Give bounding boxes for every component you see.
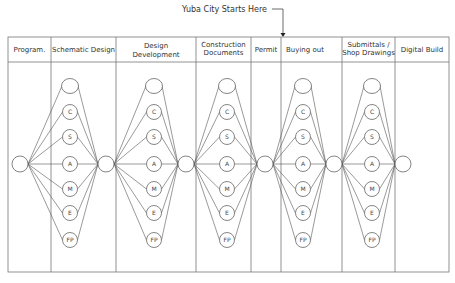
discipline-node-label: C [68, 108, 72, 115]
header-submittals-2: Shop Drawings [342, 49, 395, 57]
header-construction-documents-1: Construction [201, 41, 246, 49]
phase-hub-node [395, 156, 411, 172]
header-programming: Program. [14, 46, 46, 54]
annotation-arrow [272, 9, 283, 34]
discipline-node-label: M [369, 185, 374, 192]
discipline-node-label: M [300, 185, 305, 192]
discipline-node-label: C [225, 108, 229, 115]
header-submittals-1: Submittals / [347, 41, 390, 49]
discipline-node-label: FP [299, 236, 306, 243]
discipline-node-label: C [152, 108, 156, 115]
phase-hub-node [178, 156, 194, 172]
header-buying-out: Buying out [286, 46, 324, 54]
discipline-node-label: E [301, 209, 305, 216]
blank-discipline-node [146, 79, 163, 94]
discipline-node-label: E [152, 209, 156, 216]
discipline-node-label: E [225, 209, 229, 216]
discipline-node-label: S [370, 133, 374, 140]
discipline-node-label: M [151, 185, 156, 192]
project-phase-diagram: Yuba City Starts Here Program. Schematic… [0, 0, 455, 283]
discipline-node-label: FP [66, 236, 73, 243]
arrow-head-icon [281, 33, 286, 37]
discipline-node-label: S [68, 133, 72, 140]
blank-discipline-node [62, 79, 79, 94]
discipline-node-label: FP [368, 236, 375, 243]
phase-hub-node [326, 156, 342, 172]
annotation-label: Yuba City Starts Here [181, 5, 267, 14]
discipline-node-label: FP [223, 236, 230, 243]
discipline-node-label: S [301, 133, 305, 140]
discipline-node-label: S [225, 133, 229, 140]
phase-hub-node [257, 156, 273, 172]
phase-hub-node [98, 156, 114, 172]
discipline-node-label: S [152, 133, 156, 140]
discipline-node-label: M [67, 185, 72, 192]
header-digital-build: Digital Build [401, 46, 444, 54]
blank-discipline-node [295, 79, 312, 94]
blank-discipline-node [219, 79, 236, 94]
discipline-node-label: E [68, 209, 72, 216]
header-permit: Permit [255, 46, 278, 54]
column-headers: Program. Schematic Design Design Develop… [14, 41, 444, 59]
header-design-development-2: Development [132, 51, 179, 59]
phase-hub-node [12, 156, 28, 172]
header-schematic-design: Schematic Design [52, 46, 115, 54]
discipline-node-label: E [370, 209, 374, 216]
blank-discipline-node [364, 79, 381, 94]
node-network: CSAMEFPCSAMEFPCSAMEFPCSAMEFPCSAMEFP [12, 79, 411, 248]
discipline-node-label: M [224, 185, 229, 192]
header-design-development-1: Design [144, 42, 168, 50]
discipline-node-label: FP [150, 236, 157, 243]
discipline-node-label: C [301, 108, 305, 115]
header-construction-documents-2: Documents [204, 49, 244, 57]
discipline-node-label: C [370, 108, 374, 115]
